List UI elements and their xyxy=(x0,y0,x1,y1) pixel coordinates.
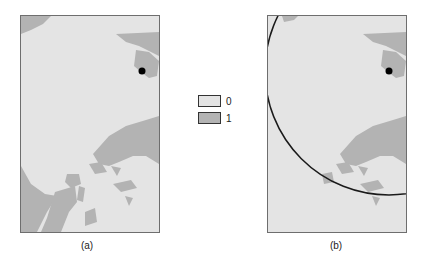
legend-swatch-0 xyxy=(198,95,221,107)
location-point xyxy=(139,68,146,75)
binary-map-a xyxy=(21,16,159,232)
legend-label-1: 1 xyxy=(226,113,232,124)
legend-swatch-1 xyxy=(198,112,221,124)
map-panel-b xyxy=(267,15,407,233)
caption-a: (a) xyxy=(67,240,107,251)
legend-item-1: 1 xyxy=(198,111,232,125)
legend-label-0: 0 xyxy=(226,96,232,107)
map-panel-a xyxy=(20,15,160,233)
legend-item-0: 0 xyxy=(198,94,232,108)
legend: 0 1 xyxy=(198,94,232,128)
caption-b: (b) xyxy=(316,240,356,251)
binary-map-b xyxy=(268,16,406,232)
location-point xyxy=(386,68,393,75)
